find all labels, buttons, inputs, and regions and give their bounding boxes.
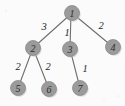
edge-weight-2-6: 2 xyxy=(45,61,51,72)
node-label-6: 6 xyxy=(47,84,52,95)
weighted-tree-figure: 1 2 3 4 5 6 7 3 1 2 2 2 1 xyxy=(0,0,125,106)
edge-weight-1-3: 1 xyxy=(64,27,69,38)
edge-weight-3-7: 1 xyxy=(82,63,87,74)
edge-weight-2-5: 2 xyxy=(15,61,21,72)
graph-canvas: 1 2 3 4 5 6 7 3 1 2 2 2 1 xyxy=(0,0,125,106)
paper-speck xyxy=(117,95,118,96)
node-label-4: 4 xyxy=(111,42,116,53)
paper-speck xyxy=(5,10,6,11)
edge-weight-1-4: 2 xyxy=(98,20,104,31)
paper-speck xyxy=(12,99,13,100)
node-label-5: 5 xyxy=(16,83,21,94)
edge-weight-1-2: 3 xyxy=(40,21,46,32)
node-label-1: 1 xyxy=(70,8,75,19)
node-label-3: 3 xyxy=(67,44,73,55)
node-label-2: 2 xyxy=(31,43,36,54)
paper-speck xyxy=(104,101,105,102)
